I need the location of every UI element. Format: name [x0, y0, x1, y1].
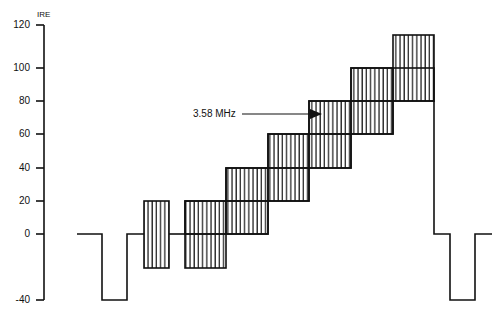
waveform-diagram	[0, 0, 501, 313]
tick-100: 100	[0, 62, 30, 73]
axis-unit: IRE	[37, 10, 50, 19]
tick-80: 80	[0, 95, 30, 106]
frequency-label: 3.58 MHz	[193, 108, 236, 119]
tick-40: 40	[0, 162, 30, 173]
tick-120: 120	[0, 19, 30, 30]
tick-minus40: -40	[0, 294, 30, 305]
tick-20: 20	[0, 195, 30, 206]
tick-0: 0	[0, 228, 30, 239]
tick-60: 60	[0, 128, 30, 139]
